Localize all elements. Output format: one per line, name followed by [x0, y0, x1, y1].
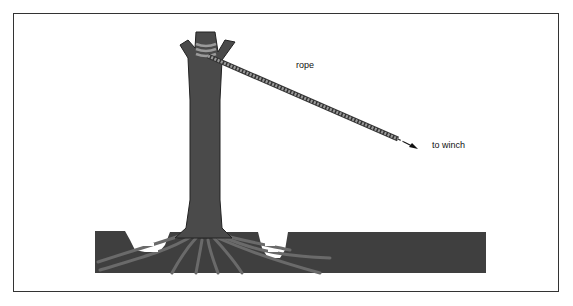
- tree-winch-illustration: [0, 0, 573, 306]
- arrow-icon: [404, 142, 418, 149]
- winch-label: to winch: [432, 140, 465, 150]
- rope-label: rope: [296, 60, 314, 70]
